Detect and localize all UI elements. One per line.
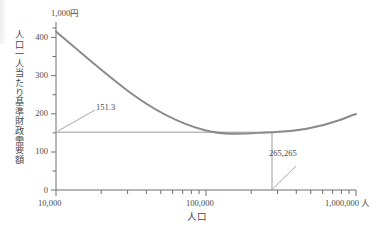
annotation-265265-label: 265,265 [269,149,297,158]
y-axis-unit-label: 1,000円 [51,9,79,18]
y-tick-label-300: 300 [26,71,48,80]
x-axis-minor-ticks [101,190,349,194]
x-tick-label-100000: 100,000 [186,199,214,208]
y-axis-title: 人口一人当たり基準財政需要額 [14,30,23,164]
y-axis-minor-ticks [53,28,57,171]
y-tick-label-400: 400 [26,33,48,42]
x-tick-label-1000000: 1,000,000 人 [325,199,370,208]
y-tick-label-100: 100 [26,147,48,156]
annotation-151-label: 151.3 [96,103,115,112]
y-tick-label-0: 0 [26,186,48,195]
leader-line-151 [58,110,95,131]
chart-figure: 1,000円 人口一人当たり基準財政需要額 400 300 200 100 0 … [0,0,389,232]
y-tick-label-200: 200 [26,109,48,118]
data-curve [56,32,356,134]
x-axis-title: 人口 [187,213,207,223]
leader-line-265265 [273,166,297,189]
x-tick-label-10000: 10,000 [38,199,61,208]
y-axis-major-ticks [51,37,56,190]
